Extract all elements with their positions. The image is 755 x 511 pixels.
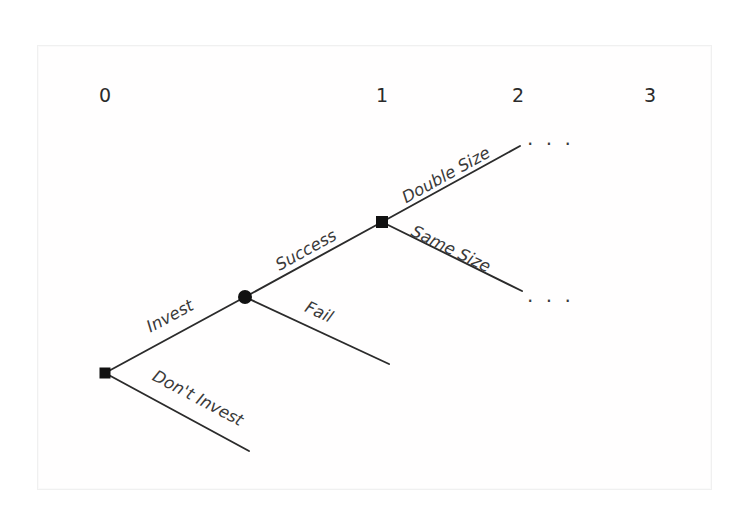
decision-node-root[interactable]: [100, 368, 111, 379]
decision-tree-canvas: [0, 0, 755, 511]
period-tick-3: 3: [644, 84, 656, 106]
edge-success[interactable]: [245, 222, 382, 297]
period-tick-1: 1: [376, 84, 388, 106]
decision-node-decision2[interactable]: [376, 216, 388, 228]
node-layer: [100, 216, 389, 379]
period-tick-0: 0: [99, 84, 111, 106]
decision-tree-figure: 0123 InvestDon't InvestSuccessFailDouble…: [0, 0, 755, 511]
period-tick-2: 2: [512, 84, 524, 106]
same-size-continuation: · · ·: [527, 289, 574, 313]
chance-node-chance1[interactable]: [238, 290, 252, 304]
edge-double-size[interactable]: [382, 146, 520, 222]
double-size-continuation: · · ·: [527, 132, 574, 156]
